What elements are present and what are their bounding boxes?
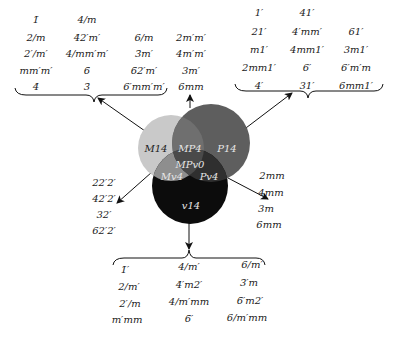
left-group: 22′2′ 42′2′ 32′ 62′2′: [91, 177, 116, 236]
group-item: 4/mm′m′: [65, 48, 109, 59]
label-m14: M14: [144, 143, 168, 154]
group-item: 2′/m: [118, 298, 140, 309]
group-item: 41′: [299, 7, 316, 18]
group-item: 3̄m′: [135, 48, 154, 59]
group-item: 3̄′m: [240, 277, 258, 288]
group-item: 2mm: [258, 170, 284, 181]
group-item: 32′: [97, 209, 113, 220]
group-item: 2mm1′: [241, 62, 277, 73]
label-mp4: MP4: [177, 143, 201, 154]
group-item: 61′: [349, 26, 365, 37]
group-item: 1̄′: [121, 264, 130, 275]
group-item: 3m: [258, 203, 274, 214]
group-item: 62′2′: [92, 225, 116, 236]
group-item: 3m1′: [344, 44, 369, 55]
label-p14: P14: [216, 143, 236, 154]
group-item: 3m′: [182, 65, 201, 76]
group-item: 4̄: [32, 81, 39, 92]
top-left-group: 1̄ 2/m 2′/m′ mm′m′ 4̄ 4/m 4̄2′m′ 4/mm′m′…: [20, 14, 207, 92]
group-item: 6/m′: [241, 259, 263, 270]
group-item: 4′mm′: [291, 26, 323, 37]
group-item: 21′: [251, 26, 268, 37]
group-item: 6/m′mm: [227, 312, 267, 323]
group-item: 3̄: [84, 81, 90, 92]
label-mpv0: MPv0: [175, 159, 206, 170]
group-item: 6′: [303, 62, 312, 73]
group-item: 4/m′: [177, 261, 200, 272]
group-item: 6mm: [178, 81, 203, 92]
group-item: 1̄: [33, 14, 39, 25]
group-item: 4mm1′: [289, 44, 325, 55]
group-item: 2/m: [25, 32, 45, 43]
venn-diagram: 1̄ 2/m 2′/m′ mm′m′ 4̄ 4/m 4̄2′m′ 4/mm′m′…: [0, 0, 394, 339]
group-item: 6/m: [134, 32, 153, 43]
group-item: m′mm: [112, 314, 143, 325]
group-item: 6′mm′m′: [123, 81, 165, 92]
group-item: mm′m′: [20, 65, 54, 76]
group-item: 4̄2′m′: [73, 32, 101, 43]
group-item: 2m′m′: [175, 32, 207, 43]
group-item: 4m′m′: [175, 48, 207, 59]
group-item: 4/m′mm: [168, 296, 209, 307]
group-item: 6mm: [256, 219, 281, 230]
arrow-to-top-left: [98, 98, 145, 131]
group-item: 4/m: [76, 14, 96, 25]
group-item: 4̄′m2′: [175, 279, 203, 290]
group-item: 6̄2′m′: [131, 65, 158, 76]
label-mv4: Mv4: [160, 171, 183, 182]
group-item: 6̄′: [185, 313, 194, 324]
group-item: 2′/m′: [23, 48, 48, 59]
group-item: m1′: [250, 44, 269, 55]
group-item: 22′2′: [91, 177, 116, 188]
bottom-group: 1̄′ 2/m′ 2′/m m′mm 4/m′ 4̄′m2′ 4/m′mm 6̄…: [112, 259, 268, 325]
group-item: 6mm1′: [339, 80, 374, 91]
label-pv4: Pv4: [199, 171, 219, 182]
label-v14: v14: [182, 200, 200, 211]
arrow-to-left: [117, 172, 152, 203]
group-item: 6̄: [84, 65, 91, 76]
group-item: 6′m′m: [341, 62, 371, 73]
group-item: 2/m′: [117, 281, 140, 292]
group-item: 4′: [254, 80, 264, 91]
group-item: 1′: [255, 7, 264, 18]
group-item: 6̄′m2′: [237, 295, 264, 306]
top-right-group: 1′ 21′ m1′ 2mm1′ 4′ 41′ 4′mm′ 4mm1′ 6′ 3…: [241, 7, 374, 91]
group-item: 42′2′: [91, 193, 116, 204]
right-group: 2mm 4mm 3m 6mm: [256, 170, 284, 230]
group-item: 31′: [300, 80, 316, 91]
group-item: 4mm: [257, 187, 283, 198]
